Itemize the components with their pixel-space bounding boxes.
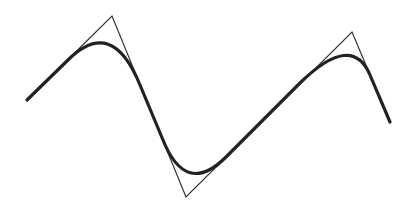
spline-curve: [27, 43, 390, 174]
spline-diagram: [0, 0, 414, 214]
